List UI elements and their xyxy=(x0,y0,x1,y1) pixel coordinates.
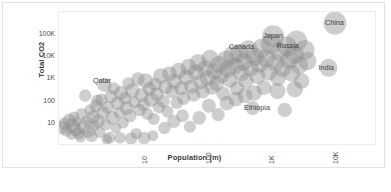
bubble-point[interactable] xyxy=(176,109,189,122)
bubble-point[interactable] xyxy=(91,94,103,106)
point-annotation: China xyxy=(325,19,344,26)
chart-card: Total CO2 101001K10K100K 101001K10K Popu… xyxy=(2,2,385,168)
bubble-point[interactable] xyxy=(246,85,262,101)
bubble-point[interactable] xyxy=(148,113,160,125)
bubble-point[interactable] xyxy=(287,81,303,97)
bubble-point[interactable] xyxy=(278,103,292,117)
plot-area: QatarCanadaJapanRussiaChinaIndiaEthiopia xyxy=(58,11,376,145)
bubble-point[interactable] xyxy=(192,111,206,125)
x-axis-title: Population (m) xyxy=(3,153,386,162)
point-annotation: Russia xyxy=(277,42,299,49)
point-annotation: India xyxy=(318,64,334,71)
bubble-point[interactable] xyxy=(212,108,225,121)
point-annotation: Japan xyxy=(263,32,283,39)
bubble-point[interactable] xyxy=(184,121,196,133)
point-annotation: Canada xyxy=(229,43,254,50)
bubble-point[interactable] xyxy=(114,132,126,144)
bubble-point[interactable] xyxy=(138,132,151,144)
point-annotation: Ethiopia xyxy=(244,104,270,111)
point-annotation: Qatar xyxy=(93,77,111,84)
bubble-point[interactable] xyxy=(298,52,316,70)
bubble-point[interactable] xyxy=(79,89,91,101)
bubble-point[interactable] xyxy=(270,83,286,99)
